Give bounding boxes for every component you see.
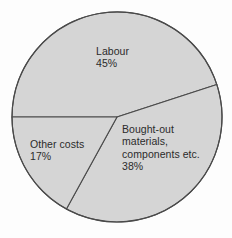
pie-slice-group: [12, 12, 222, 222]
pie-chart-canvas: [0, 0, 232, 238]
pie-chart: Labour 45% Bought-out materials, compone…: [0, 0, 232, 238]
